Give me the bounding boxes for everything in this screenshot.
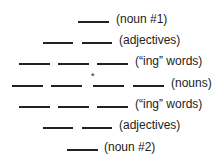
row-adjectives-1: (adjectives) [0,33,216,47]
blank-line [133,85,164,87]
row-nouns: * (nouns) [0,76,216,90]
blank-line [82,42,112,44]
blank-line [97,63,128,65]
row-label: (noun #2) [104,140,155,154]
row-noun-2: (noun #2) [0,140,216,154]
row-label: (“ing” words) [135,54,202,68]
blank-line [19,63,50,65]
blank-line [12,85,43,87]
blank-line [97,106,128,108]
row-label: (“ing” words) [135,97,202,111]
row-ing-words-1: (“ing” words) [0,54,216,68]
row-label: (nouns) [171,76,212,90]
row-label: (noun #1) [116,12,167,26]
blank-line [93,85,124,87]
blank-line [19,106,50,108]
row-label: (adjectives) [119,118,180,132]
asterisk-marker: * [91,72,95,81]
blank-line [78,21,109,23]
row-adjectives-2: (adjectives) [0,118,216,132]
blank-line [51,85,82,87]
blank-line [43,42,73,44]
blank-line [43,127,73,129]
blank-line [67,149,98,151]
blank-line [58,106,89,108]
blank-line [82,127,112,129]
row-ing-words-2: (“ing” words) [0,97,216,111]
blank-line [58,63,89,65]
row-noun-1: (noun #1) [0,12,216,26]
row-label: (adjectives) [119,33,180,47]
